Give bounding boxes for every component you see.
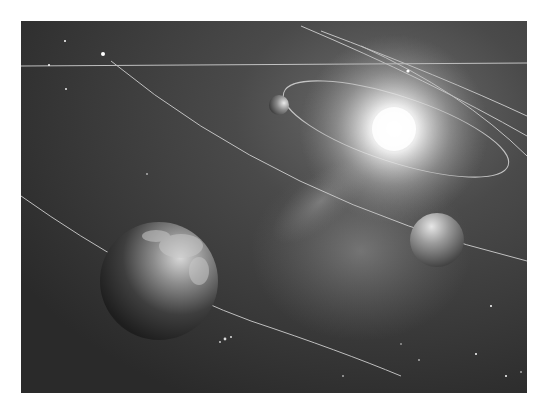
space-illustration bbox=[21, 21, 527, 393]
mid-planet bbox=[410, 213, 464, 267]
small-planet bbox=[269, 95, 289, 115]
space-artwork bbox=[21, 21, 527, 393]
sun-core bbox=[372, 107, 416, 151]
